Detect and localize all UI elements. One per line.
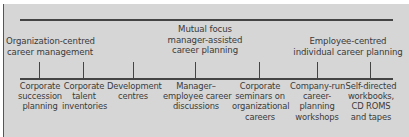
tick-corporate-seminars [259, 62, 260, 79]
item-line: workbooks, [344, 91, 398, 101]
item-line: discussions [163, 101, 229, 111]
item-line: Company-run [290, 81, 344, 91]
heading-line: manager-assisted [150, 35, 260, 46]
heading-line: Mutual focus [150, 24, 260, 35]
item-line: and tapes [344, 112, 398, 122]
item-line: seminars on [232, 91, 288, 101]
tick-manager-employee [195, 62, 196, 79]
tick-company-run-workshops [317, 62, 318, 79]
item-line: Corporate [62, 81, 106, 91]
item-line: planning [290, 101, 344, 111]
heading-mutual-focus: Mutual focus manager-assisted career pla… [150, 24, 260, 56]
continuum-baseline [20, 78, 393, 80]
item-development-centres: Development centres [107, 81, 159, 101]
item-line: organizational [232, 101, 288, 111]
item-line: careers [232, 112, 288, 122]
tick-corporate-succession [39, 62, 40, 79]
tick-development-centres [133, 62, 134, 79]
heading-line: individual career planning [293, 47, 403, 58]
item-line: Development [107, 81, 159, 91]
item-company-run-workshops: Company-run career- planning workshops [290, 81, 344, 122]
item-manager-employee-discussions: Manager– employee career discussions [163, 81, 229, 112]
item-line: inventories [62, 101, 106, 111]
item-line: planning [18, 101, 62, 111]
item-line: Manager– [163, 81, 229, 91]
heading-line: Organization-centred [6, 36, 94, 47]
item-line: workshops [290, 112, 344, 122]
item-line: Corporate [18, 81, 62, 91]
item-line: Self-directed [344, 81, 398, 91]
item-line: CD ROMS [344, 101, 398, 111]
item-line: career- [290, 91, 344, 101]
tick-self-directed [370, 62, 371, 79]
top-rule [20, 19, 393, 21]
heading-line: career management [6, 47, 94, 58]
item-line: succession [18, 91, 62, 101]
heading-line: career planning [150, 45, 260, 56]
item-line: employee career [163, 91, 229, 101]
item-line: Corporate [232, 81, 288, 91]
item-self-directed-workbooks: Self-directed workbooks, CD ROMS and tap… [344, 81, 398, 122]
heading-employee-centred: Employee-centred individual career plann… [293, 36, 403, 57]
item-line: centres [107, 91, 159, 101]
tick-corporate-talent [83, 62, 84, 79]
item-corporate-succession-planning: Corporate succession planning [18, 81, 62, 112]
heading-organization-centred: Organization-centred career management [6, 36, 94, 57]
heading-line: Employee-centred [293, 36, 403, 47]
item-corporate-seminars: Corporate seminars on organizational car… [232, 81, 288, 122]
item-line: talent [62, 91, 106, 101]
item-corporate-talent-inventories: Corporate talent inventories [62, 81, 106, 112]
